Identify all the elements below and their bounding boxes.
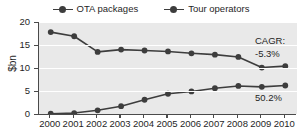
gridline-20 (39, 22, 297, 23)
data-point (48, 29, 54, 35)
data-point (235, 54, 241, 60)
data-point (118, 47, 124, 53)
x-tick-label-2001: 2001 (58, 119, 88, 129)
y-axis-title: $bn (7, 44, 18, 84)
annotation-cagr-title: CAGR: (255, 35, 285, 46)
data-point (118, 103, 124, 109)
x-tick-label-2004: 2004 (129, 119, 159, 129)
chart-container: OTA packages Tour operators $bn 05101520… (0, 0, 302, 137)
x-tick-label-2007: 2007 (199, 119, 229, 129)
series-line-2 (51, 85, 286, 113)
legend-item-tour-operators: Tour operators (164, 4, 249, 14)
chart-legend: OTA packages Tour operators (0, 0, 302, 18)
x-tick-label-2002: 2002 (82, 119, 112, 129)
x-tick-label-2003: 2003 (105, 119, 135, 129)
annotation-cagr-tour-operators: 50.2% (255, 92, 282, 103)
line-circle-marker-icon (164, 5, 184, 14)
x-tick-label-2008: 2008 (222, 119, 252, 129)
legend-label-tour-operators: Tour operators (188, 4, 249, 14)
gridline-10 (39, 68, 297, 69)
x-axis-line (38, 114, 296, 115)
y-tick-label-0: 0 (6, 109, 30, 118)
data-point (259, 84, 265, 90)
legend-item-ota-packages: OTA packages (53, 4, 139, 14)
data-point (189, 50, 195, 56)
data-point (282, 83, 288, 89)
legend-label-ota-packages: OTA packages (77, 4, 139, 14)
line-circle-marker-icon (53, 5, 73, 14)
data-point (165, 49, 171, 55)
x-tick-label-2010: 2010 (269, 119, 299, 129)
annotation-cagr-ota-packages: -5.3% (255, 48, 280, 59)
data-point (95, 49, 101, 55)
data-point (95, 107, 101, 113)
data-point (142, 48, 148, 54)
data-point (212, 52, 218, 58)
data-point (71, 33, 77, 39)
x-tick-label-2000: 2000 (35, 119, 65, 129)
y-tick-label-5: 5 (6, 86, 30, 95)
x-tick-label-2006: 2006 (175, 119, 205, 129)
data-point (142, 97, 148, 103)
x-tick-label-2005: 2005 (152, 119, 182, 129)
x-tick-label-2009: 2009 (246, 119, 276, 129)
y-tick-label-20: 20 (6, 17, 30, 26)
data-point (235, 83, 241, 89)
